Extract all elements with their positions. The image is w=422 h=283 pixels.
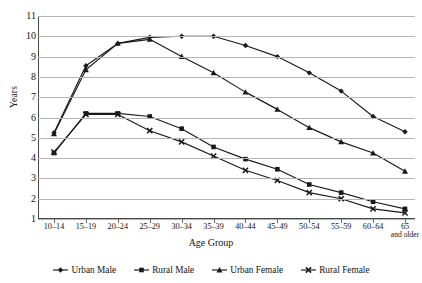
legend-marker-diamond-icon — [52, 265, 69, 275]
y-axis-tick-label: 10 — [16, 31, 36, 41]
legend-marker-cross-icon — [300, 265, 317, 275]
x-axis-title: Age Group — [0, 237, 422, 248]
gridline — [38, 118, 415, 119]
diamond-marker — [243, 43, 248, 48]
y-axis-tick-label: 7 — [16, 92, 36, 102]
x-axis-tick-label: 25–29 — [139, 222, 159, 231]
legend-item[interactable]: Urban Female — [211, 265, 283, 275]
series-line — [54, 39, 405, 171]
triangle-marker — [211, 70, 217, 75]
series-line — [54, 113, 405, 208]
gridline — [38, 158, 415, 159]
diamond-marker — [402, 129, 407, 134]
gridline — [38, 138, 415, 139]
chart-container: Years 1110987654321 10–1415–1920–2425–29… — [0, 0, 422, 283]
legend-label: Rural Female — [319, 265, 369, 275]
y-axis-tick-label: 2 — [16, 194, 36, 204]
square-marker — [339, 190, 344, 195]
triangle-marker — [51, 131, 57, 136]
y-axis-tick-label: 6 — [16, 113, 36, 123]
triangle-marker — [402, 168, 408, 173]
cross-marker — [147, 128, 152, 133]
legend-item[interactable]: Rural Male — [133, 265, 194, 275]
legend-label: Urban Male — [71, 265, 116, 275]
gridline — [38, 57, 415, 58]
gridline — [38, 178, 415, 179]
y-axis-tick-label: 4 — [16, 153, 36, 163]
square-marker — [307, 182, 312, 187]
x-axis-tick-label: 15–19 — [76, 222, 96, 231]
x-axis-tick-label: 30–34 — [171, 222, 191, 231]
plot-area — [38, 16, 415, 219]
legend-label: Urban Female — [230, 265, 283, 275]
gridline — [38, 77, 415, 78]
triangle-marker — [306, 125, 312, 130]
legend-item[interactable]: Rural Female — [300, 265, 369, 275]
diamond-marker — [307, 70, 312, 75]
square-marker — [371, 199, 376, 204]
cross-marker — [179, 139, 184, 144]
y-axis-tick-label: 8 — [16, 72, 36, 82]
x-axis-tick-label: 10–14 — [44, 222, 64, 231]
triangle-marker — [242, 89, 248, 94]
square-marker — [275, 167, 280, 172]
y-axis-tick-label: 1 — [16, 214, 36, 224]
gridline — [38, 199, 415, 200]
x-axis-tick-label: 45–49 — [267, 222, 287, 231]
y-axis-tick-label: 11 — [16, 11, 36, 21]
legend-item[interactable]: Urban Male — [52, 265, 116, 275]
square-marker — [211, 145, 216, 150]
legend-marker-triangle-icon — [211, 265, 228, 275]
gridline — [38, 97, 415, 98]
y-axis-tick-label: 3 — [16, 173, 36, 183]
x-axis-tick-label: 35–39 — [203, 222, 223, 231]
y-axis-tick-label: 9 — [16, 52, 36, 62]
square-marker — [179, 126, 184, 131]
legend-marker-square-icon — [133, 265, 150, 275]
x-axis-tick-label: 60–64 — [363, 222, 383, 231]
gridline — [38, 36, 415, 37]
y-axis-tick-label: 5 — [16, 133, 36, 143]
square-marker — [139, 268, 144, 273]
triangle-marker — [274, 106, 280, 111]
x-axis-tick-label: 55–59 — [331, 222, 351, 231]
gridline — [38, 219, 415, 220]
x-axis-tick-label: 20–24 — [108, 222, 128, 231]
x-axis-tick-label: 50–54 — [299, 222, 319, 231]
chart-legend: Urban MaleRural MaleUrban FemaleRural Fe… — [0, 260, 422, 280]
triangle-marker — [338, 139, 344, 144]
x-axis-tick-label: 40–44 — [235, 222, 255, 231]
diamond-marker — [58, 267, 63, 272]
legend-label: Rural Male — [152, 265, 194, 275]
gridline — [38, 16, 415, 17]
